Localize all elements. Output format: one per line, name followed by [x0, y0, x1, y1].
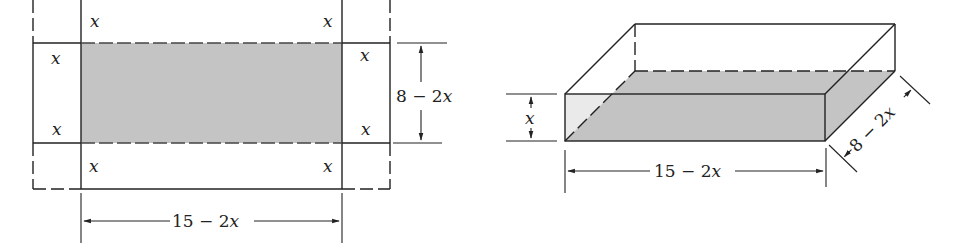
- corner-label: x: [323, 11, 333, 31]
- open-box-figure: x 15 − 2x 8 − 2x: [506, 24, 930, 193]
- height-dimension-label: 8 − 2x: [396, 86, 453, 106]
- corner-label: x: [361, 119, 371, 139]
- diagram-canvas: x x x x x x x x 8 − 2x 15 − 2x: [0, 0, 957, 249]
- box-height-label: x: [525, 108, 535, 128]
- corner-label: x: [360, 45, 370, 65]
- corner-label: x: [51, 48, 61, 68]
- width-dimension-label: 15 − 2x: [172, 211, 240, 231]
- corner-label: x: [89, 156, 99, 176]
- dimension-arrow: [844, 150, 851, 157]
- flat-sheet-figure: x x x x x x x x 8 − 2x 15 − 2x: [33, 0, 453, 243]
- base-shaded-region: [81, 43, 342, 143]
- dimension-arrow: [904, 90, 911, 97]
- extension-line: [900, 76, 930, 104]
- corner-label: x: [323, 156, 333, 176]
- corner-label: x: [90, 11, 100, 31]
- corner-label: x: [52, 119, 62, 139]
- box-length-label: 15 − 2x: [654, 161, 722, 181]
